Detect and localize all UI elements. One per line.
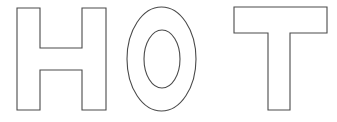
image-canvas: HOT: [0, 0, 337, 122]
word-outline-hot: [0, 0, 337, 122]
letter-o-inner-outline: [144, 30, 180, 88]
